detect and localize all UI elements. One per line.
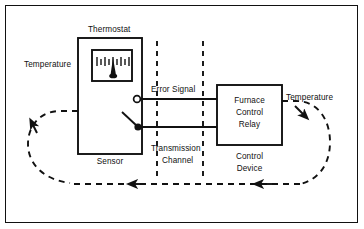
thermostat-label: Thermostat [88,25,130,35]
diagram-graphics [0,0,364,229]
furnace-label-line1: Furnace [217,96,282,106]
error-signal-label: Error Signal [151,85,195,95]
feedback-loop-right-arc [282,101,330,184]
error-signal-line [134,96,217,103]
control-device-caption-line1: Control [217,152,282,162]
transmission-channel-label-line1: Transmission [151,144,201,154]
sensor-caption: Sensor [82,157,138,167]
furnace-label-line3: Relay [217,120,282,130]
control-device-caption-line2: Device [217,164,282,174]
temperature-input-label: Temperature [24,60,71,70]
switch-arm-icon [122,112,137,126]
temperature-output-label: Temperature [286,93,333,103]
open-terminal-icon [134,96,141,103]
feedback-loop-left-arc [28,111,78,183]
transmission-channel-label-line2: Channel [162,156,193,166]
diagram-canvas: Thermostat Temperature Error Signal Temp… [0,0,364,229]
closed-terminal-icon [134,123,141,130]
furnace-label-line2: Control [217,108,282,118]
